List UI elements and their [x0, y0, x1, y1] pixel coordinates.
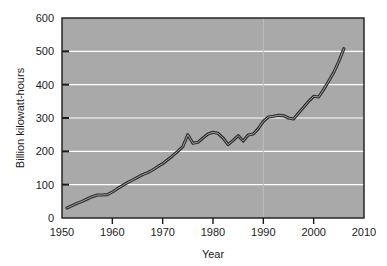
y-tick-label: 100	[36, 179, 54, 191]
x-tick-label: 1970	[150, 226, 174, 238]
x-tick-label: 1990	[251, 226, 275, 238]
y-axis-title: Billion kilowatt-hours	[14, 67, 26, 168]
y-tick-label: 400	[36, 79, 54, 91]
y-tick-label: 500	[36, 45, 54, 57]
y-tick-label: 600	[36, 12, 54, 24]
y-tick-label: 0	[48, 212, 54, 224]
x-tick-label: 1960	[100, 226, 124, 238]
chart-figure: 0100200300400500600 19501960197019801990…	[0, 0, 387, 266]
x-tick-label: 2010	[352, 226, 376, 238]
x-tick-label: 2000	[301, 226, 325, 238]
x-tick-label: 1950	[50, 226, 74, 238]
x-tick-label: 1980	[201, 226, 225, 238]
line-chart: 0100200300400500600 19501960197019801990…	[0, 0, 387, 266]
y-tick-label: 200	[36, 145, 54, 157]
y-tick-label: 300	[36, 112, 54, 124]
x-axis-title: Year	[202, 248, 225, 260]
